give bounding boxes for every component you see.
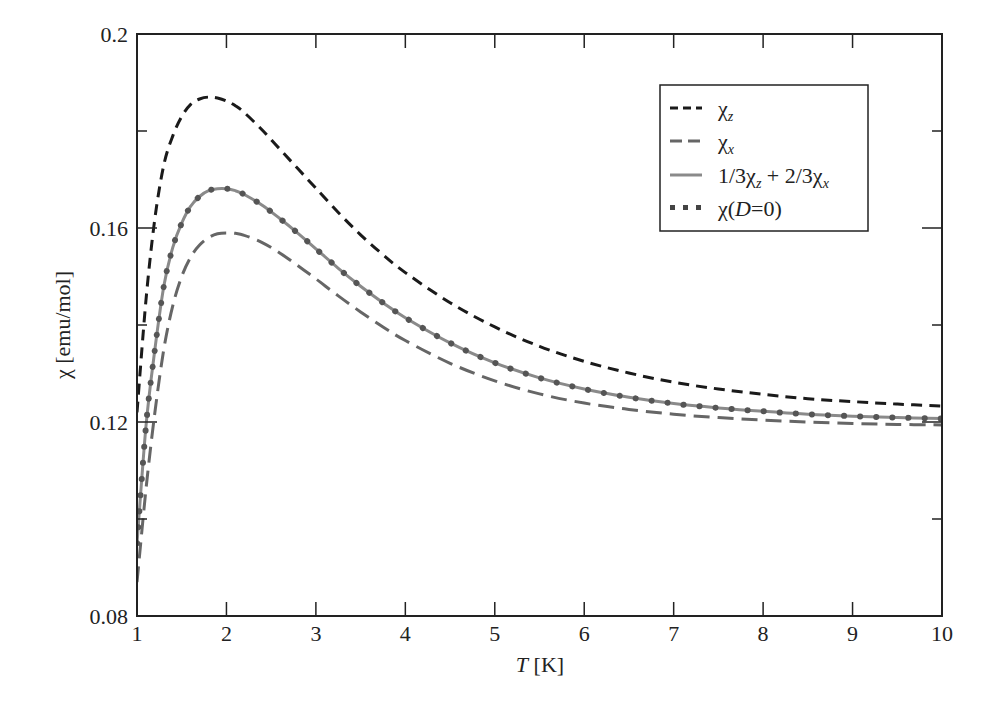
x-tick-label: 1 xyxy=(132,621,143,646)
y-tick-label: 0.08 xyxy=(90,604,129,629)
x-tick-labels: 12345678910 xyxy=(132,621,954,646)
x-tick-label: 7 xyxy=(668,621,679,646)
x-tick-label: 8 xyxy=(758,621,769,646)
x-tick-label: 4 xyxy=(400,621,411,646)
x-tick-label: 10 xyxy=(931,621,953,646)
y-tick-label: 0.16 xyxy=(90,216,129,241)
x-tick-label: 5 xyxy=(489,621,500,646)
x-tick-label: 2 xyxy=(221,621,232,646)
x-axis-label: T [K] xyxy=(516,652,564,677)
y-axis-label: χ [emu/mol] xyxy=(50,271,75,380)
curve-chi-x xyxy=(137,233,942,582)
susceptibility-chart: 12345678910 0.080.120.160.2 T [K] χ [emu… xyxy=(0,0,997,702)
x-tick-label: 3 xyxy=(310,621,321,646)
y-tick-label: 0.2 xyxy=(101,22,129,47)
legend: χz χx 1/3χz + 2/3χx χ(D=0) xyxy=(660,85,868,231)
legend-label-average: 1/3χz + 2/3χx xyxy=(718,163,830,191)
legend-label-chi-d0: χ(D=0) xyxy=(717,196,782,221)
x-tick-label: 6 xyxy=(579,621,590,646)
legend-swatch-chi-d0 xyxy=(670,205,701,210)
y-tick-labels: 0.080.120.160.2 xyxy=(90,22,129,629)
x-tick-label: 9 xyxy=(847,621,858,646)
y-tick-label: 0.12 xyxy=(90,410,129,435)
x-axis-label-unit: [K] xyxy=(528,652,564,677)
